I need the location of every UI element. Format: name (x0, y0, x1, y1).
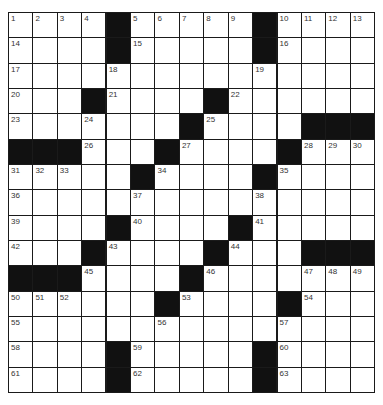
crossword-cell[interactable] (107, 114, 130, 138)
crossword-cell[interactable] (33, 317, 56, 341)
crossword-cell[interactable]: 54 (302, 292, 325, 316)
crossword-cell[interactable] (58, 190, 81, 214)
crossword-cell[interactable] (155, 38, 178, 62)
crossword-cell[interactable]: 12 (326, 13, 349, 37)
crossword-cell[interactable] (278, 266, 301, 290)
crossword-cell[interactable]: 46 (204, 266, 227, 290)
crossword-cell[interactable]: 51 (33, 292, 56, 316)
crossword-cell[interactable] (278, 89, 301, 113)
crossword-cell[interactable] (107, 165, 130, 189)
crossword-cell[interactable] (131, 292, 154, 316)
crossword-cell[interactable]: 33 (58, 165, 81, 189)
crossword-cell[interactable]: 10 (278, 13, 301, 37)
crossword-cell[interactable] (33, 216, 56, 240)
crossword-cell[interactable] (204, 140, 227, 164)
crossword-cell[interactable] (278, 216, 301, 240)
crossword-cell[interactable]: 49 (351, 266, 374, 290)
crossword-cell[interactable] (351, 342, 374, 366)
crossword-cell[interactable] (33, 368, 56, 392)
crossword-cell[interactable] (229, 140, 252, 164)
crossword-cell[interactable] (107, 266, 130, 290)
crossword-cell[interactable] (253, 317, 276, 341)
crossword-cell[interactable]: 29 (326, 140, 349, 164)
crossword-cell[interactable] (204, 38, 227, 62)
crossword-cell[interactable]: 1 (9, 13, 32, 37)
crossword-cell[interactable]: 44 (229, 241, 252, 265)
crossword-cell[interactable] (82, 368, 105, 392)
crossword-cell[interactable] (155, 368, 178, 392)
crossword-cell[interactable] (326, 165, 349, 189)
crossword-cell[interactable] (82, 190, 105, 214)
crossword-cell[interactable] (326, 38, 349, 62)
crossword-cell[interactable] (131, 241, 154, 265)
crossword-cell[interactable] (155, 89, 178, 113)
crossword-cell[interactable]: 24 (82, 114, 105, 138)
crossword-cell[interactable]: 25 (204, 114, 227, 138)
crossword-cell[interactable] (131, 266, 154, 290)
crossword-cell[interactable] (278, 241, 301, 265)
crossword-cell[interactable] (253, 140, 276, 164)
crossword-cell[interactable] (33, 241, 56, 265)
crossword-cell[interactable]: 7 (180, 13, 203, 37)
crossword-cell[interactable]: 45 (82, 266, 105, 290)
crossword-cell[interactable] (302, 317, 325, 341)
crossword-cell[interactable] (155, 216, 178, 240)
crossword-cell[interactable] (155, 342, 178, 366)
crossword-cell[interactable] (253, 292, 276, 316)
crossword-cell[interactable] (229, 317, 252, 341)
crossword-cell[interactable] (351, 317, 374, 341)
crossword-cell[interactable] (33, 190, 56, 214)
crossword-cell[interactable] (326, 317, 349, 341)
crossword-cell[interactable] (33, 89, 56, 113)
crossword-cell[interactable] (326, 342, 349, 366)
crossword-cell[interactable]: 43 (107, 241, 130, 265)
crossword-cell[interactable] (326, 368, 349, 392)
crossword-cell[interactable] (131, 317, 154, 341)
crossword-cell[interactable]: 21 (107, 89, 130, 113)
crossword-cell[interactable] (180, 216, 203, 240)
crossword-cell[interactable] (82, 38, 105, 62)
crossword-cell[interactable] (326, 89, 349, 113)
crossword-cell[interactable] (204, 190, 227, 214)
crossword-cell[interactable] (82, 317, 105, 341)
crossword-cell[interactable] (351, 165, 374, 189)
crossword-cell[interactable]: 32 (33, 165, 56, 189)
crossword-cell[interactable] (58, 216, 81, 240)
crossword-cell[interactable] (58, 342, 81, 366)
crossword-cell[interactable]: 14 (9, 38, 32, 62)
crossword-cell[interactable] (82, 342, 105, 366)
crossword-cell[interactable] (58, 241, 81, 265)
crossword-cell[interactable] (278, 190, 301, 214)
crossword-cell[interactable]: 13 (351, 13, 374, 37)
crossword-cell[interactable] (58, 317, 81, 341)
crossword-cell[interactable]: 28 (302, 140, 325, 164)
crossword-cell[interactable]: 59 (131, 342, 154, 366)
crossword-cell[interactable] (253, 266, 276, 290)
crossword-cell[interactable]: 47 (302, 266, 325, 290)
crossword-cell[interactable] (302, 342, 325, 366)
crossword-cell[interactable] (204, 368, 227, 392)
crossword-cell[interactable]: 15 (131, 38, 154, 62)
crossword-cell[interactable]: 42 (9, 241, 32, 265)
crossword-cell[interactable] (58, 89, 81, 113)
crossword-cell[interactable]: 26 (82, 140, 105, 164)
crossword-cell[interactable]: 41 (253, 216, 276, 240)
crossword-cell[interactable] (155, 266, 178, 290)
crossword-cell[interactable] (107, 317, 130, 341)
crossword-cell[interactable] (82, 216, 105, 240)
crossword-cell[interactable] (229, 38, 252, 62)
crossword-cell[interactable] (204, 292, 227, 316)
crossword-cell[interactable] (58, 38, 81, 62)
crossword-cell[interactable]: 40 (131, 216, 154, 240)
crossword-cell[interactable] (204, 317, 227, 341)
crossword-cell[interactable]: 37 (131, 190, 154, 214)
crossword-cell[interactable] (229, 368, 252, 392)
crossword-cell[interactable]: 56 (155, 317, 178, 341)
crossword-cell[interactable] (302, 38, 325, 62)
crossword-cell[interactable] (229, 64, 252, 88)
crossword-cell[interactable]: 2 (33, 13, 56, 37)
crossword-cell[interactable]: 18 (107, 64, 130, 88)
crossword-cell[interactable] (351, 190, 374, 214)
crossword-cell[interactable] (302, 190, 325, 214)
crossword-cell[interactable] (82, 292, 105, 316)
